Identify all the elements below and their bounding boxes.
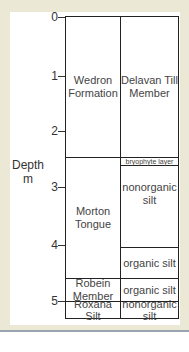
unit-delavan-till-member: Delavan Till Member (121, 17, 178, 157)
tick-label-0: 0 (44, 11, 58, 23)
unit-roxana-silt: Roxana Silt (66, 302, 120, 318)
tick-label-2: 2 (44, 125, 58, 137)
y-axis-label-line2: m (8, 172, 48, 186)
unit-nonorganic-silt-lower: nonorganic silt (121, 302, 178, 318)
tick-label-3: 3 (44, 181, 58, 193)
y-axis-label-line1: Depth (8, 158, 48, 172)
unit-bryophyte-layer: bryophyte layer (121, 158, 178, 165)
bottom-divider (0, 330, 189, 332)
unit-organic-silt-upper: organic silt (121, 248, 178, 278)
tick-label-4: 4 (44, 239, 58, 251)
y-axis-label: Depth m (8, 158, 48, 186)
tick-label-1: 1 (44, 70, 58, 82)
unit-morton-tongue: Morton Tongue (66, 158, 120, 278)
tick-label-5: 5 (44, 295, 58, 307)
unit-wedron-formation: Wedron Formation (66, 17, 120, 157)
unit-nonorganic-silt-upper: nonorganic silt (121, 166, 178, 247)
